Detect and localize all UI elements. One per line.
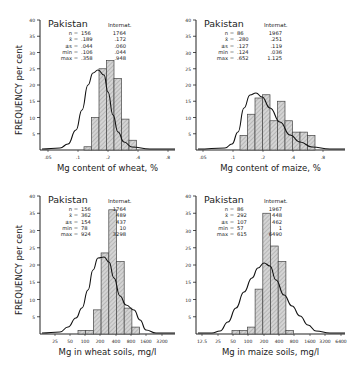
stat-label: x̄ = [69, 36, 78, 42]
y-tick-label: 10 [185, 298, 191, 303]
stat-pakistan: .124 [237, 49, 249, 55]
x-tick-label: .8 [166, 155, 170, 160]
stat-pakistan: 362 [81, 212, 91, 218]
stat-label: max = [61, 55, 78, 61]
x-tick-label: .4 [291, 155, 295, 160]
stat-internat: .119 [270, 43, 282, 49]
x-tick-label: .05 [199, 155, 206, 160]
y-tick-label: 35 [29, 34, 35, 39]
stat-internat: 437 [116, 219, 126, 225]
y-tick-label: 15 [29, 99, 35, 104]
histogram-bar [255, 289, 263, 334]
stat-internat: .060 [114, 43, 126, 49]
stat-label: n = [225, 30, 234, 36]
y-tick-label: 5 [188, 315, 191, 320]
histogram-bar [240, 331, 248, 334]
y-tick-label: 30 [29, 51, 35, 56]
histogram-bar [255, 98, 263, 150]
y-tick-label: 20 [29, 83, 35, 88]
y-tick-label: 35 [185, 34, 191, 39]
x-tick-label: 25 [215, 339, 221, 344]
histogram-bar [86, 331, 94, 334]
histogram-bar [114, 79, 122, 151]
x-tick-label: 3200 [156, 339, 168, 344]
stat-pakistan: 86 [237, 206, 244, 212]
panel-title: Pakistan [48, 18, 88, 29]
stat-internat: .044 [114, 49, 126, 55]
stat-internat: 1 [279, 225, 282, 231]
stat-pakistan: .127 [237, 43, 249, 49]
x-tick-label: .05 [44, 155, 51, 160]
stat-internat: 462 [272, 219, 282, 225]
x-axis-label: Mg content of maize, % [220, 163, 321, 173]
y-tick-label: 40 [29, 194, 35, 199]
x-tick-label: .8 [321, 155, 325, 160]
histogram-bar [92, 118, 100, 151]
histogram-bar [93, 310, 101, 334]
stat-internat: 6490 [269, 231, 282, 237]
x-tick-label: 400 [275, 339, 284, 344]
x-tick-label: .1 [231, 155, 235, 160]
stat-label: min = [62, 49, 78, 55]
histogram-bar [270, 121, 278, 150]
y-tick-label: 40 [185, 18, 191, 23]
y-tick-label: 15 [29, 280, 35, 285]
stat-pakistan: 154 [81, 219, 92, 225]
stat-label: n = [69, 206, 78, 212]
histogram-bar [78, 331, 86, 334]
y-tick-label: 30 [185, 229, 191, 234]
stat-label: n = [69, 30, 78, 36]
x-tick-label: 50 [67, 339, 73, 344]
panel-title: Pakistan [48, 194, 88, 205]
stat-internat: 1.125 [267, 55, 282, 61]
x-axis-label: Mg in maize soils, mg/l [222, 347, 319, 357]
y-axis-label: FREQUENCY per cent [14, 224, 24, 315]
y-tick-label: 20 [185, 263, 191, 268]
histogram-bar [271, 246, 279, 334]
stat-label: x̄ = [225, 36, 234, 42]
stat-label: ±s = [221, 219, 234, 225]
panel-title: Pakistan [204, 18, 244, 29]
y-tick-label: 5 [188, 132, 191, 137]
stat-pakistan: 615 [237, 231, 247, 237]
stat-label: n = [225, 206, 234, 212]
stat-label: x̄ = [69, 212, 78, 218]
internat-header: Internat. [108, 198, 132, 204]
histogram-bar [84, 147, 92, 150]
chart-panel-1: 510152025303540.05.1.2.4.8Mg content of … [14, 18, 175, 173]
y-tick-label: 30 [185, 51, 191, 56]
y-tick-label: 15 [185, 280, 191, 285]
stat-label: min = [218, 49, 234, 55]
histogram-bar [278, 262, 286, 334]
y-tick-label: 35 [29, 211, 35, 216]
x-tick-label: 12.5 [197, 339, 207, 344]
y-tick-label: 20 [185, 83, 191, 88]
chart-panel-3: 510152025303540255010020040080016003200M… [14, 194, 175, 357]
histogram-bar [293, 132, 301, 150]
y-tick-label: 25 [185, 67, 191, 72]
stat-pakistan: 107 [237, 219, 247, 225]
stat-internat: 1967 [269, 30, 282, 36]
x-tick-label: .1 [76, 155, 80, 160]
histogram-bar [109, 210, 117, 334]
stat-pakistan: .106 [81, 49, 93, 55]
y-axis-label: FREQUENCY per cent [14, 44, 24, 135]
x-tick-label: 1600 [140, 339, 152, 344]
figure: 510152025303540.05.1.2.4.8Mg content of … [0, 0, 362, 371]
x-tick-label: 400 [112, 339, 121, 344]
stat-internat: 448 [272, 212, 282, 218]
histogram-bar [129, 140, 137, 150]
y-tick-label: 25 [29, 67, 35, 72]
x-tick-label: 25 [52, 339, 58, 344]
stat-pakistan: .044 [81, 43, 93, 49]
stat-label: ±s = [65, 219, 78, 225]
stat-label: min = [218, 225, 234, 231]
stat-internat: 1967 [269, 206, 282, 212]
histogram-bar [286, 331, 294, 334]
stat-label: min = [62, 225, 78, 231]
y-tick-label: 15 [185, 99, 191, 104]
stat-pakistan: 924 [81, 231, 92, 237]
x-tick-label: 1600 [304, 339, 316, 344]
histogram-bar [240, 135, 248, 150]
stat-internat: 3298 [113, 231, 126, 237]
